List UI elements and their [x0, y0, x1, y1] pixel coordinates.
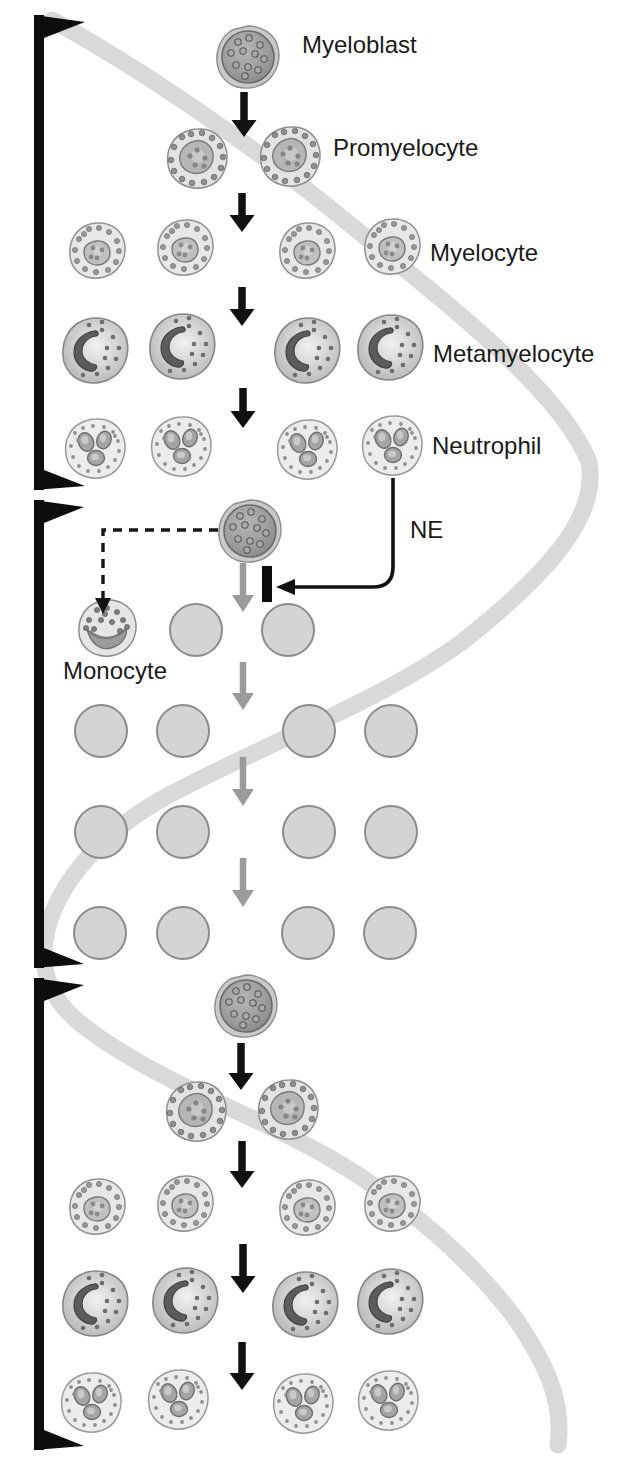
- differentiation-arrow-black: [230, 287, 255, 326]
- differentiation-arrow-black: [231, 388, 256, 428]
- label-metamyelocyte: Metamyelocyte: [433, 340, 594, 367]
- metamyelocyte-cell: [150, 314, 215, 379]
- myeloblast-cell: [217, 26, 279, 88]
- neutrophil-cell: [152, 417, 211, 476]
- differentiation-arrow-black: [230, 1342, 255, 1390]
- neutrophil-cell: [278, 420, 337, 479]
- neutrophil-cell: [62, 1373, 121, 1432]
- neutrophil-cell: [359, 1371, 418, 1430]
- absent-cell-placeholder: [283, 806, 335, 858]
- neutrophil-cell: [66, 419, 125, 478]
- metamyelocyte-cell: [63, 1271, 128, 1336]
- label-ne: NE: [410, 516, 443, 543]
- neutrophil-cell: [274, 1374, 333, 1433]
- myelocyte-cell: [70, 223, 125, 278]
- myeloblast-cell: [219, 500, 281, 562]
- label-myeloblast: Myeloblast: [302, 31, 417, 58]
- absent-cell-placeholder: [170, 604, 222, 656]
- promyelocyte-cell: [259, 1080, 318, 1139]
- metamyelocyte-cell: [358, 315, 423, 380]
- promyelocyte-cell: [168, 129, 227, 188]
- absent-cell-placeholder: [282, 907, 334, 959]
- myelocyte-cell: [158, 220, 213, 275]
- absent-cell-placeholder: [157, 907, 209, 959]
- label-neutrophil: Neutrophil: [432, 432, 541, 459]
- ne-feedback-group: [262, 478, 393, 602]
- myelocyte-cell: [365, 219, 420, 274]
- absent-cell-placeholder: [262, 604, 314, 656]
- diagram-canvas: Myeloblast Promyelocyte Myelocyte Metamy…: [0, 0, 630, 1479]
- neutrophil-cell: [149, 1370, 208, 1429]
- neutrophil-cell: [363, 416, 422, 475]
- differentiation-arrow-gray: [232, 563, 254, 612]
- label-promyelocyte: Promyelocyte: [333, 134, 478, 161]
- monocyte-branch-arrow: [103, 530, 218, 598]
- differentiation-arrow-black: [230, 1141, 255, 1188]
- myelocyte-cell: [280, 1180, 335, 1235]
- absent-cell-placeholder: [75, 705, 127, 757]
- differentiation-arrow-black: [229, 1043, 254, 1090]
- promyelocyte-cell: [261, 127, 320, 186]
- label-myelocyte: Myelocyte: [430, 239, 538, 266]
- metamyelocyte-cell: [275, 318, 340, 383]
- myeloblast-cell: [215, 975, 277, 1037]
- differentiation-arrow-gray: [232, 662, 254, 710]
- ne-inhibition-bar: [262, 566, 272, 602]
- differentiation-arrow-gray: [232, 858, 254, 907]
- absent-cell-placeholder: [365, 705, 417, 757]
- myelocyte-cell: [158, 1176, 213, 1231]
- label-monocyte: Monocyte: [63, 657, 167, 684]
- absent-cell-placeholder: [75, 806, 127, 858]
- myelocyte-cell: [70, 1179, 125, 1234]
- metamyelocyte-cell: [273, 1272, 338, 1337]
- granulopoiesis-diagram: Myeloblast Promyelocyte Myelocyte Metamy…: [0, 0, 630, 1479]
- absent-cell-placeholder: [365, 806, 417, 858]
- differentiation-arrow-black: [231, 1244, 256, 1293]
- ne-feedback-arrowhead: [276, 579, 295, 595]
- monocyte-cell: [79, 600, 136, 656]
- metamyelocyte-cell: [358, 1269, 423, 1334]
- absent-cell-placeholder: [157, 806, 209, 858]
- absent-cell-placeholder: [157, 705, 209, 757]
- absent-cell-placeholder: [283, 705, 335, 757]
- myelocyte-cell: [280, 223, 335, 278]
- absent-cell-placeholder: [74, 907, 126, 959]
- myelocyte-cell: [365, 1176, 420, 1231]
- metamyelocyte-cell: [153, 1268, 218, 1333]
- absent-cell-placeholder: [364, 907, 416, 959]
- metamyelocyte-cell: [63, 318, 128, 383]
- promyelocyte-cell: [167, 1082, 226, 1141]
- differentiation-arrow-black: [230, 193, 255, 232]
- ne-feedback-arrow: [294, 478, 393, 587]
